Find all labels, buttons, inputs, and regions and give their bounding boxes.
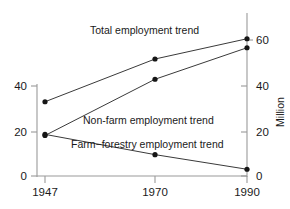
right-tick-label-20: 20: [256, 126, 269, 138]
x-axis: 1947 1970 1990: [32, 176, 260, 198]
x-tick-label-1947: 1947: [32, 186, 58, 198]
data-point-farm-1990: [244, 167, 249, 172]
data-point-nonfarm-1990: [244, 45, 249, 50]
left-tick-label-40: 40: [14, 80, 27, 92]
data-point-nonfarm-1970: [152, 77, 157, 82]
series-label-farm-forestry-employment: Farm−forestry employment trend: [71, 138, 224, 150]
right-axis-title: Million: [274, 97, 286, 127]
data-point-total-1990: [244, 36, 249, 41]
x-tick-label-1970: 1970: [142, 186, 168, 198]
x-tick-label-1990: 1990: [234, 186, 260, 198]
right-tick-label-0: 0: [256, 170, 262, 182]
data-point-farm-1970: [152, 152, 157, 157]
employment-trend-line-chart: 40 20 0 60 40 20 0 Million 1947 1970 1: [0, 0, 290, 209]
data-point-total-1947: [42, 99, 47, 104]
data-point-total-1970: [152, 56, 157, 61]
chart-container: 40 20 0 60 40 20 0 Million 1947 1970 1: [0, 0, 290, 209]
series-label-total-employment: Total employment trend: [90, 24, 199, 36]
series-label-non-farm-employment: Non-farm employment trend: [83, 114, 214, 126]
left-axis: 40 20 0: [14, 80, 37, 182]
right-tick-label-60: 60: [256, 34, 269, 46]
data-point-farm-1947: [42, 132, 47, 137]
left-tick-label-0: 0: [21, 170, 27, 182]
right-tick-label-40: 40: [256, 80, 269, 92]
series-total-employment: [42, 36, 249, 104]
series-total-employment-line: [45, 39, 247, 102]
left-tick-label-20: 20: [14, 126, 27, 138]
